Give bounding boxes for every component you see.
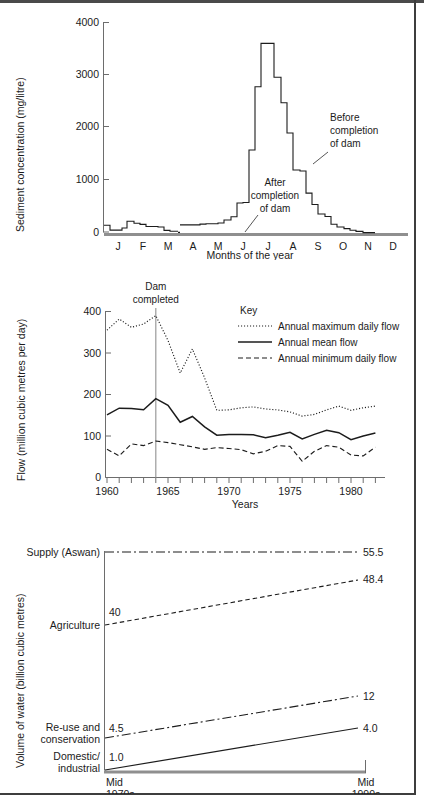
chart1-month-M1: M: [164, 240, 173, 252]
chart2-y-axis-title: Flow (million cubic metres per day): [15, 319, 27, 481]
chart1-ann-before-l3: of dam: [330, 138, 361, 149]
chart3-y-axis-title: Volume of water (billion cubic metres): [14, 594, 26, 769]
chart3-label-reuse-l1: Re-use and: [46, 721, 100, 733]
page-top-rule: [0, 0, 424, 3]
chart3-label-reuse-l2: conservation: [40, 733, 100, 745]
chart3-value-reuse-start: 4.5: [109, 722, 124, 734]
chart2-legend-item-min: Annual minimum daily flow: [278, 353, 397, 364]
chart1-y-axis-title: Sediment concentration (mg/litre): [14, 77, 26, 232]
chart2-y-ticks: [106, 312, 112, 478]
chart1-ytick-2000: 2000: [76, 120, 100, 132]
chart1-ann-after-l1: After: [264, 177, 286, 188]
flow-chart: 400 300 200 100 0 Flow (million cubic me…: [0, 268, 414, 510]
chart3-value-domestic-end: 4.0: [363, 722, 378, 734]
chart1-month-D: D: [389, 240, 397, 252]
chart1-ann-before-l2: completion: [330, 125, 378, 136]
chart2-xtick-1980: 1980: [339, 485, 363, 497]
chart3-label-domestic-l2: industrial: [58, 762, 100, 774]
chart1-x-axis-title: Months of the year: [207, 249, 294, 260]
chart3-line-reuse: [105, 696, 358, 738]
chart2-dam-note-l1: Dam: [145, 281, 166, 292]
chart1-ann-after-l2: completion: [251, 190, 299, 201]
chart2-x-axis-title: Years: [232, 498, 258, 510]
chart3-line-domestic: [105, 728, 358, 770]
chart1-ann-before-leader: [313, 152, 328, 164]
chart2-ytick-0: 0: [95, 471, 101, 483]
chart1-ytick-1000: 1000: [76, 173, 100, 185]
chart2-series-annual-minimum: [107, 441, 375, 461]
chart2-legend-title: Key: [240, 305, 257, 316]
chart3-xlabel-left-l2: 1970s: [106, 788, 135, 794]
chart3-label-agriculture: Agriculture: [50, 619, 100, 631]
chart1-ann-before-l1: Before: [330, 112, 360, 123]
chart3-xlabel-right-l1: Mid: [358, 776, 375, 788]
chart2-xtick-1960: 1960: [95, 485, 119, 497]
chart1-annotation-after: After completion of dam: [245, 177, 299, 232]
chart2-ytick-200: 200: [83, 388, 101, 400]
chart2-ytick-400: 400: [83, 305, 101, 317]
chart2-dam-note-l2: completed: [133, 294, 179, 305]
chart1-ann-after-l3: of dam: [260, 203, 291, 214]
chart3-value-supply-end: 55.5: [363, 546, 384, 558]
chart1-month-J1: J: [115, 240, 120, 252]
chart2-xtick-1975: 1975: [278, 485, 302, 497]
chart3-xlabel-left-l1: Mid: [106, 776, 123, 788]
chart1-ytick-0: 0: [93, 226, 99, 238]
chart1-annotation-before: Before completion of dam: [313, 112, 378, 164]
chart2-legend: Key Annual maximum daily flow Annual mea…: [238, 305, 400, 364]
chart3-value-agriculture-end: 48.4: [363, 573, 384, 585]
water-balance-chart: Volume of water (billion cubic metres) S…: [0, 520, 414, 794]
chart3-line-agriculture: [105, 580, 358, 625]
chart3-value-reuse-end: 12: [363, 690, 375, 702]
chart2-xtick-1965: 1965: [156, 485, 180, 497]
chart3-label-supply: Supply (Aswan): [26, 546, 100, 558]
chart1-ytick-4000: 4000: [76, 16, 100, 28]
chart2-legend-item-mean: Annual mean flow: [278, 337, 358, 348]
chart1-month-O: O: [339, 240, 347, 252]
chart3-xlabel-right-l2: 1990s: [352, 788, 381, 794]
chart2-legend-item-max: Annual maximum daily flow: [278, 321, 400, 332]
chart3-value-agriculture-start: 40: [109, 606, 121, 618]
chart3-value-domestic-start: 1.0: [109, 751, 124, 763]
chart1-month-A1: A: [189, 240, 196, 252]
chart2-x-ticks: [107, 478, 375, 484]
chart1-ytick-3000: 3000: [76, 68, 100, 80]
chart2-series-annual-mean: [107, 399, 375, 440]
chart1-month-F: F: [140, 240, 146, 252]
chart3-label-domestic-l1: Domestic/: [53, 750, 100, 762]
sediment-chart: 4000 3000 2000 1000 0 Sediment concentra…: [0, 4, 414, 260]
chart1-month-S: S: [314, 240, 321, 252]
chart2-ytick-300: 300: [83, 347, 101, 359]
chart1-month-N: N: [364, 240, 372, 252]
chart1-y-ticks: [104, 23, 110, 233]
figure-page: 4000 3000 2000 1000 0 Sediment concentra…: [0, 0, 424, 806]
chart2-xtick-1970: 1970: [217, 485, 241, 497]
chart2-ytick-100: 100: [83, 430, 101, 442]
chart1-ann-after-leader: [245, 215, 258, 232]
page-right-rule: [414, 0, 416, 795]
